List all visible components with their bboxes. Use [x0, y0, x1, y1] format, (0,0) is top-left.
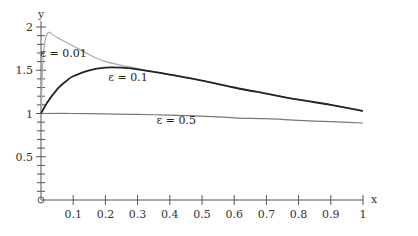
- annotations-group: ε = 0.01ε = 0.1ε = 0.5: [40, 47, 196, 127]
- curve-label: ε = 0.01: [40, 47, 86, 60]
- x-axis-label: x: [371, 193, 378, 206]
- series-line: [41, 67, 363, 113]
- series-line: [41, 113, 363, 123]
- y-tick-label: 0.5: [16, 151, 34, 164]
- y-axis-label: y: [37, 8, 45, 21]
- axes: 0.511.520.10.20.30.40.50.60.70.80.91xy: [16, 8, 379, 221]
- x-tick-label: 0.8: [290, 208, 308, 221]
- y-tick-label: 1.5: [16, 64, 34, 77]
- x-tick-label: 0.6: [225, 208, 243, 221]
- y-tick-label: 2: [26, 21, 33, 34]
- x-tick-label: 0.7: [258, 208, 276, 221]
- curve-label: ε = 0.5: [157, 114, 196, 127]
- x-tick-label: 0.9: [322, 208, 340, 221]
- line-chart: 0.511.520.10.20.30.40.50.60.70.80.91xy ε…: [0, 0, 418, 236]
- x-tick-label: 0.3: [129, 208, 147, 221]
- x-tick-label: 0.4: [161, 208, 179, 221]
- y-tick-label: 1: [26, 108, 33, 121]
- x-tick-label: 1: [360, 208, 367, 221]
- x-tick-label: 0.2: [97, 208, 115, 221]
- series-group: [41, 32, 363, 123]
- x-tick-label: 0.1: [64, 208, 82, 221]
- series-line: [41, 32, 363, 113]
- curve-label: ε = 0.1: [108, 71, 147, 84]
- x-tick-label: 0.5: [193, 208, 211, 221]
